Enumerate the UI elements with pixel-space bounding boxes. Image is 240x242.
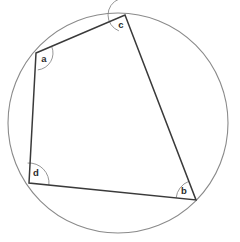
vertex-label-c: c [118, 19, 123, 30]
vertex-label-b: b [181, 185, 187, 196]
angle-arc-c [108, 0, 119, 31]
diagram-canvas: a c b d [0, 0, 240, 242]
vertex-label-a: a [41, 53, 47, 64]
inscribed-quadrilateral [29, 15, 196, 200]
angle-arc-group [28, 0, 189, 198]
vertex-label-d: d [33, 167, 39, 178]
cyclic-quadrilateral-figure: a c b d [0, 0, 240, 242]
